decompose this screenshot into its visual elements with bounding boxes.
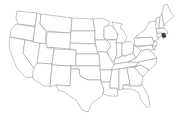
- state-massachusetts[interactable]: [156, 28, 168, 34]
- state-florida[interactable]: [123, 84, 150, 108]
- state-colorado[interactable]: [52, 49, 76, 66]
- state-kansas[interactable]: [76, 54, 100, 66]
- states-layer: [9, 4, 174, 112]
- state-pennsylvania[interactable]: [134, 37, 154, 46]
- us-map: [0, 0, 181, 118]
- state-wyoming[interactable]: [46, 32, 71, 49]
- state-connecticut[interactable]: [157, 33, 162, 38]
- state-north-dakota[interactable]: [71, 18, 95, 31]
- state-maine[interactable]: [162, 4, 174, 26]
- state-arizona[interactable]: [33, 63, 52, 86]
- state-new-mexico[interactable]: [50, 65, 71, 87]
- state-washington[interactable]: [16, 11, 37, 26]
- state-south-dakota[interactable]: [70, 31, 95, 44]
